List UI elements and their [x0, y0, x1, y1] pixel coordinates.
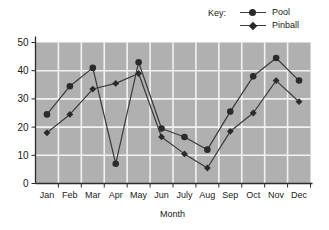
data-point-marker: [44, 111, 51, 118]
y-tick-label: 0: [23, 178, 29, 189]
x-tick-label: Apr: [109, 190, 123, 200]
data-point-marker: [296, 77, 303, 84]
data-point-marker: [181, 134, 188, 141]
x-tick-label: Nov: [268, 190, 285, 200]
x-tick-label: May: [130, 190, 148, 200]
data-point-marker: [227, 108, 234, 115]
x-tick-label: Feb: [62, 190, 78, 200]
y-tick-label: 50: [17, 37, 29, 48]
y-tick-label: 20: [17, 122, 29, 133]
x-tick-label: Dec: [291, 190, 308, 200]
data-point-marker: [135, 59, 142, 66]
x-tick-label: Sep: [222, 190, 238, 200]
plot-area-wrapper: 01020304050 JanFebMarAprMayJunJulyAugSep…: [0, 0, 329, 230]
data-point-marker: [273, 55, 280, 62]
x-tick-label: Jan: [40, 190, 55, 200]
data-point-marker: [250, 73, 257, 80]
y-tick-label: 30: [17, 93, 29, 104]
x-axis-tick-labels: JanFebMarAprMayJunJulyAugSepOctNovDec: [40, 190, 308, 200]
x-tick-label: Mar: [85, 190, 101, 200]
data-point-marker: [67, 83, 74, 90]
x-tick-label: July: [176, 190, 193, 200]
x-tick-label: Aug: [199, 190, 215, 200]
data-point-marker: [112, 160, 119, 167]
x-axis-title: Month: [35, 209, 310, 220]
y-tick-label: 40: [17, 65, 29, 76]
x-tick-label: Jun: [154, 190, 169, 200]
data-point-marker: [204, 146, 211, 153]
plot-svg: 01020304050 JanFebMarAprMayJunJulyAugSep…: [0, 0, 329, 230]
x-tick-label: Oct: [246, 190, 261, 200]
line-chart: Key: Pool Pinball 01020304050 JanFeb: [0, 0, 329, 230]
y-tick-label: 10: [17, 150, 29, 161]
data-point-marker: [89, 65, 96, 72]
y-axis-tick-labels: 01020304050: [17, 37, 29, 189]
